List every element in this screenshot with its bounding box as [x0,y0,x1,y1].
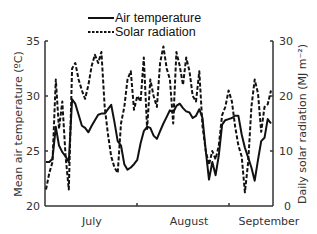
left-tick-20: 20 [26,200,40,213]
right-tick-0: 0 [284,200,291,213]
x-tick-july: July [81,215,102,228]
left-tick-35: 35 [26,35,40,48]
air-temperature-line [46,99,271,180]
right-axis-title: Daily solar radiation (MJ m⁻²) [296,44,309,204]
right-tick-10: 10 [279,145,293,158]
legend-air-temperature: Air temperature [115,11,201,25]
x-tick-september: September [239,215,300,228]
chart: Air temperature Solar radiation 35 30 25… [0,0,317,234]
legend-solar-radiation: Solar radiation [115,25,196,39]
right-tick-20: 20 [279,90,293,103]
left-tick-30: 30 [26,90,40,103]
legend: Air temperature Solar radiation [88,11,201,39]
right-tick-30: 30 [279,35,293,48]
x-tick-august: August [170,215,209,228]
left-axis-title: Mean air temperature (ºC) [12,51,25,196]
left-tick-25: 25 [26,145,40,158]
